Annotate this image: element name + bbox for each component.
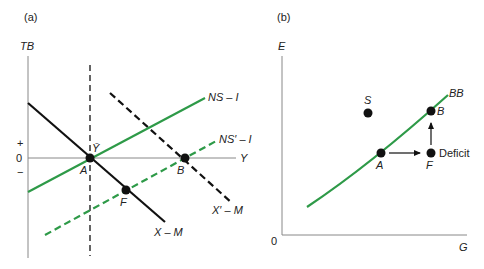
point-f-bb xyxy=(427,149,436,158)
point-b-label: B xyxy=(177,164,184,176)
panel-a: (a) TB Y + 0 − Ȳ X – M X′ – M NS – I NS′… xyxy=(16,11,252,258)
point-f-bb-label: F xyxy=(426,159,434,171)
point-s-label: S xyxy=(364,94,372,106)
minus-sign: − xyxy=(17,166,23,178)
point-b-bb xyxy=(427,107,436,116)
y-bar-label: Ȳ xyxy=(92,142,100,154)
x-prime-m-label: X′ – M xyxy=(211,204,244,216)
origin-label: 0 xyxy=(271,235,277,247)
panel-b-label: (b) xyxy=(277,11,290,23)
ns-i-label: NS – I xyxy=(208,91,239,103)
deficit-label: Deficit xyxy=(439,147,470,159)
bb-label: BB xyxy=(449,87,464,99)
tb-axis-label: TB xyxy=(20,40,34,52)
ns-prime-i-curve xyxy=(45,140,218,235)
y-axis-label: Y xyxy=(240,152,248,164)
panel-a-label: (a) xyxy=(24,11,37,23)
point-a-label: A xyxy=(79,164,87,176)
plus-sign: + xyxy=(17,137,23,149)
point-a xyxy=(86,154,95,163)
point-f-label: F xyxy=(120,196,128,208)
x-m-label: X – M xyxy=(153,226,184,238)
point-b xyxy=(181,154,190,163)
ns-prime-i-label: NS′ – I xyxy=(219,133,252,145)
point-s xyxy=(364,109,373,118)
economics-diagram: (a) TB Y + 0 − Ȳ X – M X′ – M NS – I NS′… xyxy=(0,0,484,269)
point-a-bb-label: A xyxy=(375,159,383,171)
e-axis-label: E xyxy=(278,40,286,52)
x-m-curve xyxy=(28,103,165,222)
point-a-bb xyxy=(377,149,386,158)
point-f xyxy=(122,186,131,195)
ns-i-curve xyxy=(28,98,205,192)
panel-b: (b) E 0 G BB S B A F Deficit xyxy=(271,11,470,253)
g-axis-label: G xyxy=(459,241,468,253)
zero-label: 0 xyxy=(16,152,22,164)
point-b-bb-label: B xyxy=(437,105,444,117)
